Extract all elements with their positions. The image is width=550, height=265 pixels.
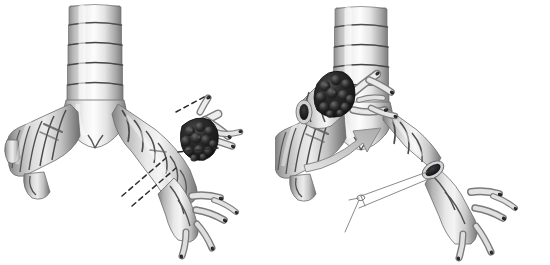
trachea (67, 5, 123, 115)
panel-pre-resection (0, 0, 275, 265)
tracheal-cartilage-rings (67, 5, 123, 105)
distal-bronchial-segment (419, 157, 518, 261)
endobronchial-tumour (180, 118, 218, 162)
panel-post-resection (275, 0, 550, 265)
pre-resection-illustration (0, 0, 275, 265)
left-main-bronchus (5, 104, 80, 199)
post-resection-illustration (275, 0, 550, 265)
distal-bronchial-tree (158, 178, 239, 259)
excised-tumour (314, 71, 355, 118)
figure-root: Bronchial sleeve resection of an endobro… (0, 0, 550, 265)
anastomosis-sutures (345, 172, 431, 232)
